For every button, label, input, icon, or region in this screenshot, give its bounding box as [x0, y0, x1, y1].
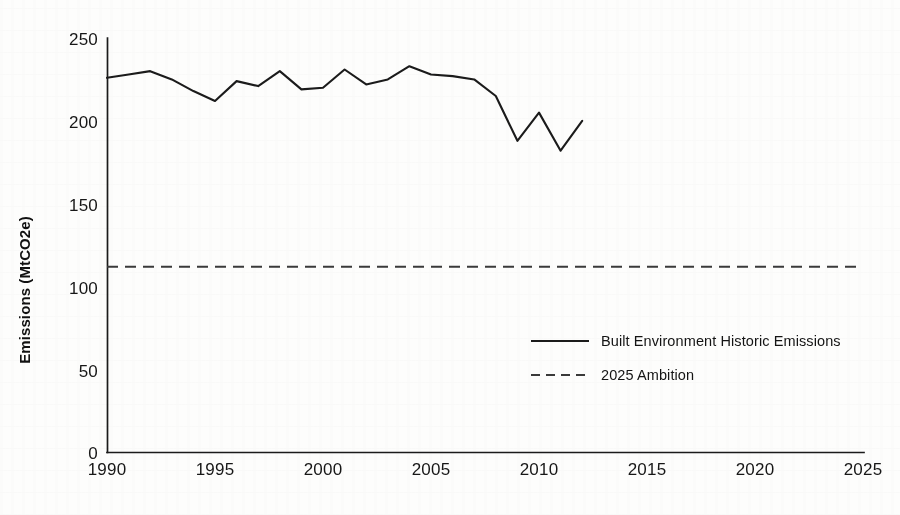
y-axis-tick-labels: 250 200 150 100 50 0	[69, 30, 98, 463]
x-tick-label: 2000	[304, 460, 343, 479]
x-tick-label: 2020	[736, 460, 775, 479]
x-tick-label: 1995	[196, 460, 235, 479]
y-axis-title: Emissions (MtCO2e)	[16, 216, 33, 364]
y-tick-label: 250	[69, 30, 98, 49]
x-tick-label: 2015	[628, 460, 667, 479]
legend-label-ambition: 2025 Ambition	[601, 367, 694, 383]
x-tick-label: 1990	[88, 460, 127, 479]
x-tick-label: 2005	[412, 460, 451, 479]
emissions-line-chart: Emissions (MtCO2e) 250 200 150 100 50 0 …	[0, 0, 900, 515]
x-tick-label: 2025	[844, 460, 883, 479]
y-tick-label: 150	[69, 196, 98, 215]
y-tick-label: 100	[69, 279, 98, 298]
x-tick-label: 2010	[520, 460, 559, 479]
y-tick-label: 200	[69, 113, 98, 132]
legend-label-historic: Built Environment Historic Emissions	[601, 333, 841, 349]
chart-legend: Built Environment Historic Emissions 202…	[531, 333, 841, 383]
y-tick-label: 50	[79, 362, 98, 381]
x-axis-tick-labels: 1990 1995 2000 2005 2010 2015 2020 2025	[88, 460, 883, 479]
historic-emissions-series-line	[107, 66, 582, 151]
chart-svg: Emissions (MtCO2e) 250 200 150 100 50 0 …	[0, 0, 900, 515]
